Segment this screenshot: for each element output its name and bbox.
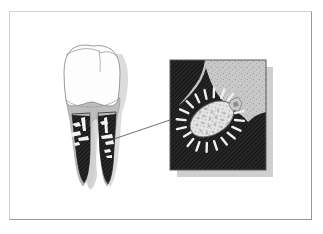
figure-root: Tooth with subgingival plaque and magnif… [0, 0, 323, 234]
molar-tooth [64, 45, 128, 195]
magnified-inset-panel [167, 60, 273, 177]
illustration-canvas [0, 0, 323, 234]
tooth-crown [64, 45, 120, 106]
